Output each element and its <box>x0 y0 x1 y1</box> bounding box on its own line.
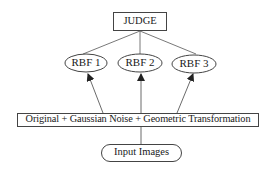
preprocess-label: Original + Gaussian Noise + Geometric Tr… <box>17 114 259 124</box>
edge-preprocess-rbf1 <box>88 74 103 113</box>
edge-rbf3-judge <box>140 31 196 54</box>
rbf1-label: RBF 1 <box>65 57 107 68</box>
edge-preprocess-rbf3 <box>177 74 193 113</box>
edge-rbf1-judge <box>83 31 140 54</box>
rbf2-label: RBF 2 <box>118 57 162 68</box>
input-images-label: Input Images <box>101 147 182 158</box>
rbf3-label: RBF 3 <box>172 58 216 69</box>
judge-label: JUDGE <box>113 16 167 27</box>
